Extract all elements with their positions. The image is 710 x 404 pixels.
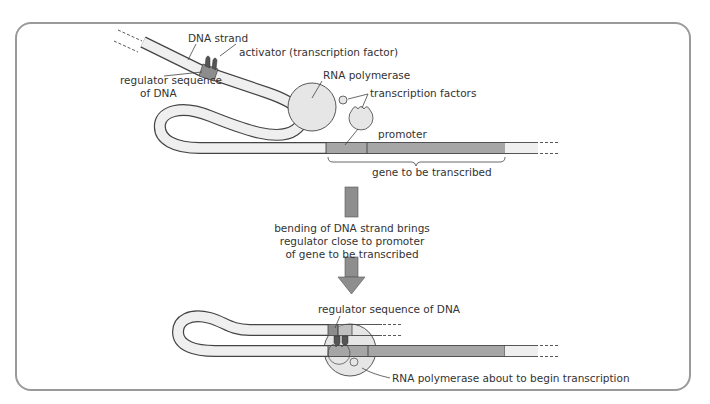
label-rna-polymerase: RNA polymerase: [323, 69, 410, 81]
label-bottom-polymerase: RNA polymerase about to begin transcript…: [392, 372, 630, 384]
label-gene: gene to be transcribed: [372, 166, 492, 178]
caption-line-3: of gene to be transcribed: [285, 248, 418, 260]
top-transcription-factor-small: [339, 96, 347, 104]
transcription-diagram: DNA strand activator (transcription fact…: [0, 0, 710, 404]
bottom-gene-strand: [328, 346, 558, 357]
caption-line-1: bending of DNA strand brings: [274, 222, 430, 234]
label-promoter: promoter: [378, 128, 427, 140]
label-dna-strand: DNA strand: [188, 32, 248, 44]
bottom-transcription-factor-small: [350, 358, 358, 366]
label-bottom-regulator: regulator sequence of DNA: [318, 303, 461, 315]
top-gene-strand: [326, 143, 558, 154]
top-transcription-factor-large: [349, 107, 373, 130]
label-activator: activator (transcription factor): [239, 46, 398, 58]
label-regulator-line2: of DNA: [140, 87, 177, 99]
bottom-dna-loop: [178, 316, 330, 351]
caption-line-2: regulator close to promoter: [280, 235, 425, 247]
label-regulator-line1: regulator sequence: [120, 74, 222, 86]
top-rna-polymerase: [288, 83, 336, 131]
label-transcription-factors: transcription factors: [370, 87, 476, 99]
